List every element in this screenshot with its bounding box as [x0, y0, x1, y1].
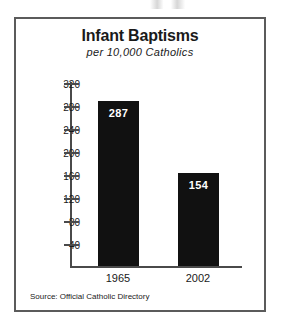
y-tick-mark: [64, 129, 79, 131]
plot-area: 320 280 240 200 160 120 80 40 287 154 19…: [16, 19, 264, 310]
y-tick-mark: [64, 175, 79, 177]
y-tick-mark: [64, 152, 79, 154]
y-tick-mark: [64, 221, 79, 223]
y-tick-mark: [64, 106, 79, 108]
bar-value-1965: 287: [98, 107, 139, 119]
bar-2002[interactable]: 154: [178, 173, 219, 266]
source-note: Source: Official Catholic Directory: [30, 292, 149, 301]
y-tick-mark: [64, 83, 79, 85]
x-axis-line: [70, 266, 242, 268]
bar-1965[interactable]: 287: [98, 101, 139, 266]
bar-value-2002: 154: [178, 179, 219, 191]
x-category-label-1965: 1965: [88, 272, 148, 284]
chart-frame: Infant Baptisms per 10,000 Catholics 320…: [14, 17, 266, 312]
x-category-label-2002: 2002: [168, 272, 228, 284]
y-tick-mark: [64, 198, 79, 200]
y-tick-mark: [64, 244, 79, 246]
scan-artifact: [150, 0, 190, 9]
